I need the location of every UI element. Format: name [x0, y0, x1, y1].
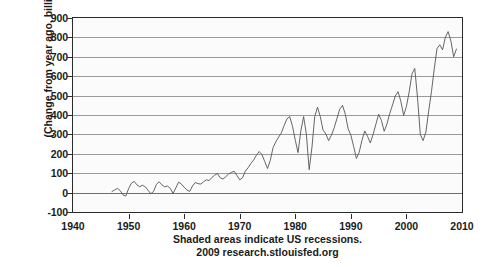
x-tick-label-2000: 2000	[376, 221, 436, 232]
y-tick-label-0: 0	[4, 188, 68, 198]
x-tick-label-1950: 1950	[99, 221, 159, 232]
x-tick-mark-2000	[406, 214, 407, 219]
x-tick-mark-1990	[351, 214, 352, 219]
x-tick-label-2010: 2010	[432, 221, 492, 232]
y-tick-label-600: 600	[4, 71, 68, 81]
footer-recessions-note: Shaded areas indicate US recessions.	[72, 233, 463, 245]
chart-figure: (Change from year ago, billions of dolla…	[0, 0, 499, 267]
plot-area	[72, 17, 463, 213]
x-tick-mark-1970	[240, 214, 241, 219]
footer-source: 2009 research.stlouisfed.org	[72, 246, 463, 258]
x-tick-mark-1950	[129, 214, 130, 219]
y-tick-label-200: 200	[4, 149, 68, 159]
x-tick-label-1990: 1990	[321, 221, 381, 232]
y-tick-label-800: 800	[4, 32, 68, 42]
x-tick-label-1970: 1970	[210, 221, 270, 232]
x-tick-mark-1960	[184, 214, 185, 219]
y-tick-label-300: 300	[4, 129, 68, 139]
y-tick-label-900: 900	[4, 13, 68, 23]
series-polyline	[112, 32, 457, 197]
x-tick-label-1940: 1940	[43, 221, 103, 232]
data-series-line	[73, 18, 462, 212]
x-axis-ticklabels: 19401950196019701980199020002010	[0, 214, 499, 234]
y-tick-label-700: 700	[4, 52, 68, 62]
x-tick-mark-1980	[295, 214, 296, 219]
y-tick-label-500: 500	[4, 91, 68, 101]
y-tick-label-400: 400	[4, 110, 68, 120]
x-tick-label-1960: 1960	[154, 221, 214, 232]
y-tick-label-100: 100	[4, 168, 68, 178]
x-tick-label-1980: 1980	[265, 221, 325, 232]
